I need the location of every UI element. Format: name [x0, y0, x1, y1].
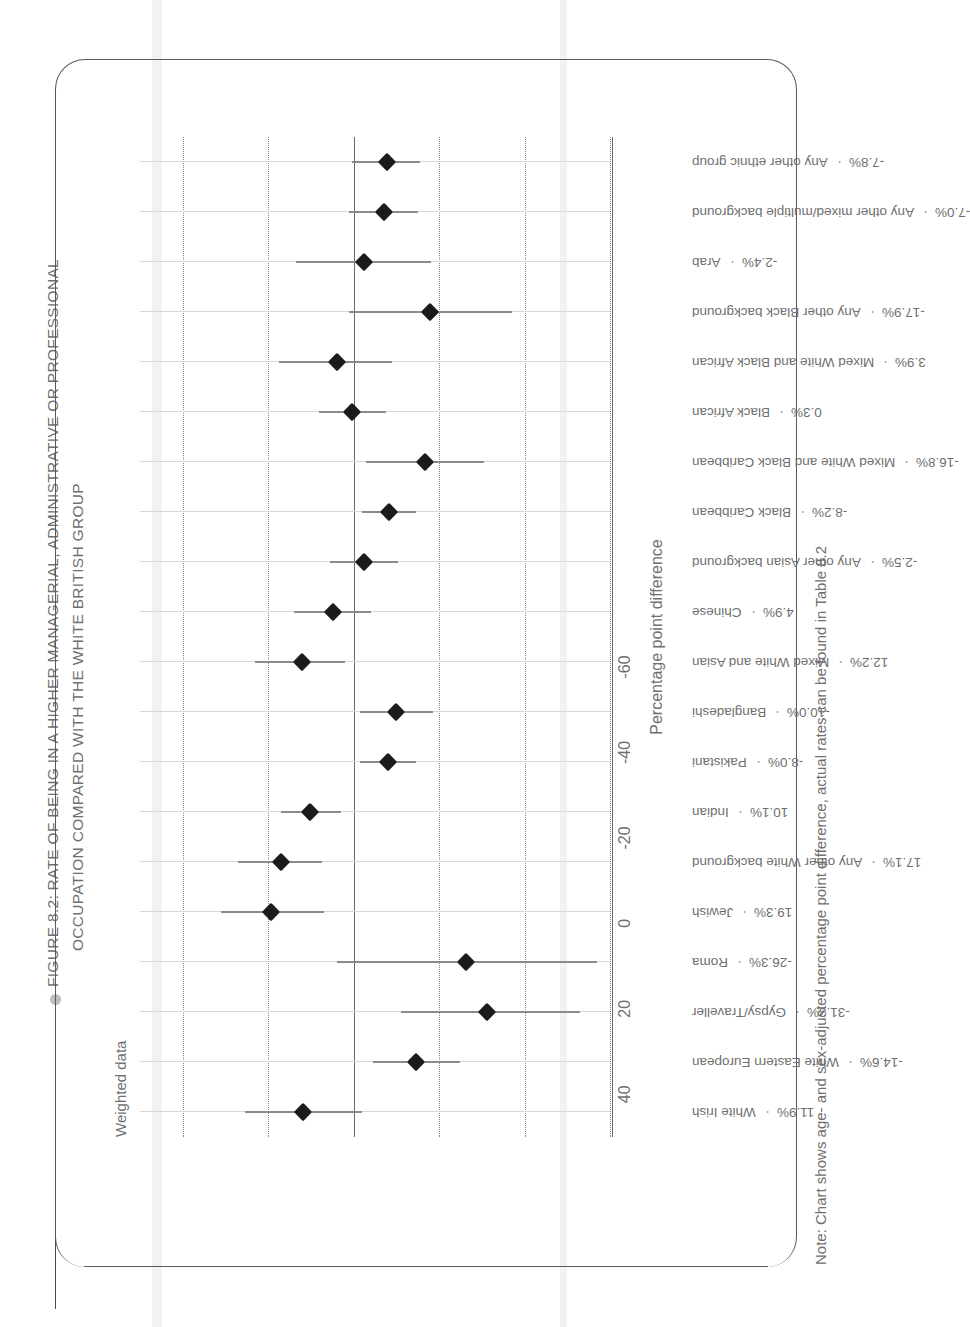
- category-gridline: [140, 811, 610, 812]
- axis-title: Percentage point difference: [648, 137, 666, 1137]
- gridline: [183, 137, 184, 1137]
- category-name: Any other ethnic group: [692, 155, 828, 169]
- label-separator-dot: ·: [789, 1005, 804, 1019]
- category-value: -17.9%: [882, 305, 925, 319]
- category-value: -2.4%: [742, 255, 777, 269]
- category-value: 0.3%: [791, 405, 822, 419]
- axis-tick-label: 40: [616, 1085, 634, 1103]
- category-value: -26.3%: [749, 955, 792, 969]
- label-separator-dot: ·: [750, 755, 765, 769]
- label-separator-dot: ·: [832, 655, 847, 669]
- category-label: Bangladeshi·-10.0%: [692, 705, 830, 719]
- data-point-marker: [292, 653, 310, 671]
- category-value: 10.1%: [750, 805, 788, 819]
- category-name: Any other Asian background: [692, 555, 861, 569]
- plot-area: [140, 137, 610, 1137]
- gridline: [439, 137, 440, 1137]
- label-separator-dot: ·: [773, 405, 788, 419]
- chart-subtitle: Weighted data: [112, 1041, 129, 1137]
- label-separator-dot: ·: [769, 705, 784, 719]
- gridline: [525, 137, 526, 1137]
- figure-note: Note: Chart shows age- and sex-adjusted …: [812, 546, 829, 1265]
- category-name: Roma: [692, 955, 728, 969]
- data-point-marker: [328, 353, 346, 371]
- label-separator-dot: ·: [898, 455, 913, 469]
- category-name: Arab: [692, 255, 721, 269]
- category-label: Pakistani·-8.0%: [692, 755, 803, 769]
- category-value: 11.9%: [777, 1105, 814, 1119]
- category-value: -7.8%: [849, 155, 884, 169]
- label-separator-dot: ·: [745, 605, 760, 619]
- label-separator-dot: ·: [732, 805, 747, 819]
- category-gridline: [140, 661, 610, 662]
- category-value: -7.0%: [935, 205, 970, 219]
- category-name: Mixed White and Black African: [692, 355, 874, 369]
- category-name: Chinese: [692, 605, 742, 619]
- plot-canvas: [140, 137, 610, 1137]
- category-value: 4.9%: [763, 605, 794, 619]
- category-label: Indian·10.1%: [692, 805, 788, 819]
- category-name: Mixed White and Asian: [692, 655, 829, 669]
- data-point-marker: [379, 503, 397, 521]
- data-point-marker: [407, 1053, 425, 1071]
- data-point-marker: [374, 203, 392, 221]
- category-name: Any other White background: [692, 855, 862, 869]
- category-value: 17.1%: [883, 855, 921, 869]
- data-point-marker: [323, 603, 341, 621]
- category-value: 3.9%: [895, 355, 926, 369]
- axis-tick-label: -40: [616, 741, 634, 764]
- label-separator-dot: ·: [736, 905, 751, 919]
- category-label: Any other Asian background·-2.5%: [692, 555, 917, 569]
- data-point-marker: [294, 1103, 312, 1121]
- label-separator-dot: ·: [831, 155, 846, 169]
- label-separator-dot: ·: [864, 305, 879, 319]
- category-name: Bangladeshi: [692, 705, 766, 719]
- label-separator-dot: ·: [731, 955, 746, 969]
- axis-tick-label: 20: [616, 1000, 634, 1018]
- data-point-marker: [379, 753, 397, 771]
- category-name: Any other mixed/multiple background: [692, 205, 914, 219]
- category-gridline: [140, 611, 610, 612]
- data-point-marker: [301, 803, 319, 821]
- gridline: [610, 137, 611, 1137]
- axis-tick-label: -20: [616, 826, 634, 849]
- data-point-marker: [457, 953, 475, 971]
- category-label: Mixed White and Asian·12.2%: [692, 655, 889, 669]
- zero-reference-line: [354, 137, 355, 1137]
- category-name: Gypsy/Traveller: [692, 1005, 786, 1019]
- category-name: Pakistani: [692, 755, 747, 769]
- category-name: Jewish: [692, 905, 733, 919]
- figure-card-left-rule: [84, 1266, 768, 1267]
- category-label: Any other Black background·-17.9%: [692, 305, 925, 319]
- category-label: Chinese·4.9%: [692, 605, 793, 619]
- category-label: Black African·0.3%: [692, 405, 822, 419]
- category-label: Arab·-2.4%: [692, 255, 777, 269]
- category-name: Mixed White and Black Caribbean: [692, 455, 895, 469]
- category-value: -14.6%: [860, 1055, 903, 1069]
- category-gridline: [140, 861, 610, 862]
- category-label: Roma·-26.3%: [692, 955, 792, 969]
- category-name: Any other Black background: [692, 305, 861, 319]
- data-point-marker: [271, 853, 289, 871]
- category-name: White Irish: [692, 1105, 756, 1119]
- category-name: Black Caribbean: [692, 505, 791, 519]
- data-point-marker: [343, 403, 361, 421]
- data-point-marker: [416, 453, 434, 471]
- label-separator-dot: ·: [794, 505, 809, 519]
- category-label: White Irish·11.9%: [692, 1105, 814, 1119]
- category-name: Indian: [692, 805, 729, 819]
- label-separator-dot: ·: [877, 355, 892, 369]
- data-point-marker: [478, 1003, 496, 1021]
- category-value: -16.8%: [916, 455, 959, 469]
- data-point-marker: [421, 303, 439, 321]
- category-label: Any other mixed/multiple background·-7.0…: [692, 205, 970, 219]
- category-value: -8.2%: [812, 505, 847, 519]
- category-gridline: [140, 911, 610, 912]
- category-label: Jewish·19.3%: [692, 905, 793, 919]
- label-separator-dot: ·: [759, 1105, 774, 1119]
- data-point-marker: [387, 703, 405, 721]
- category-value: -2.5%: [882, 555, 917, 569]
- category-label: Any other ethnic group·-7.8%: [692, 155, 884, 169]
- label-separator-dot: ·: [724, 255, 739, 269]
